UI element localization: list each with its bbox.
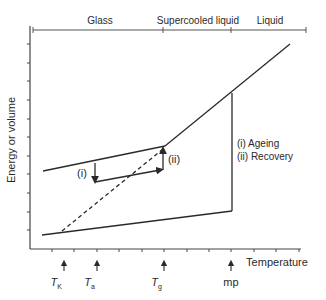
marker-mp: mp xyxy=(223,276,238,288)
glass-upper-line xyxy=(43,146,165,171)
ageing-step-label: (i) xyxy=(77,167,87,179)
legend-ageing: (i) Ageing xyxy=(237,138,279,149)
glass-transition-diagram: Glass Supercooled liquid Liquid Energy o xyxy=(0,0,326,300)
crystal-line xyxy=(42,211,232,235)
region-label-supercooled: Supercooled liquid xyxy=(157,15,239,26)
legend-recovery: (ii) Recovery xyxy=(237,151,293,162)
marker-ta: Ta xyxy=(84,276,95,290)
region-bar xyxy=(33,27,306,33)
temperature-marker-arrows xyxy=(64,263,231,271)
region-label-glass: Glass xyxy=(87,15,113,26)
temperature-marker-labels: TK Ta Tg mp xyxy=(51,276,239,291)
recovery-step-label: (ii) xyxy=(168,153,180,165)
marker-tg: Tg xyxy=(151,276,162,291)
kauzmann-dashed-line xyxy=(62,149,163,231)
aged-glass-line xyxy=(95,170,160,182)
y-axis-label: Energy or volume xyxy=(5,97,17,183)
region-label-liquid: Liquid xyxy=(257,15,284,26)
x-axis-label: Temperature xyxy=(246,256,308,268)
liquid-line xyxy=(165,44,290,146)
marker-tk: TK xyxy=(51,276,63,290)
